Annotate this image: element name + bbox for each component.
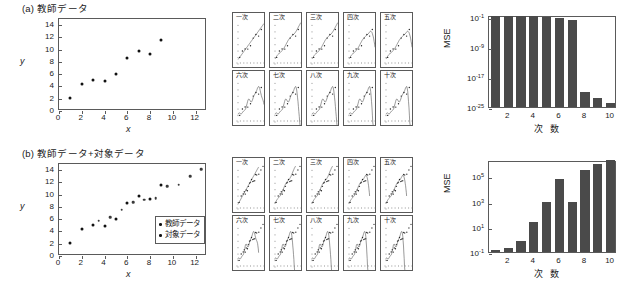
x-axis-tick-label: 10: [167, 113, 176, 122]
legend-dot-icon: [159, 234, 162, 237]
mse-y-axis-tick-label: 10-9: [470, 43, 484, 54]
thumbnail-label: 四次: [346, 14, 360, 20]
mse-y-axis-tick-label: 10-17: [467, 73, 484, 84]
thumbnail-fit-degree-10: 十次: [380, 215, 413, 271]
panel-a-scatter-ylabel: y: [20, 56, 25, 66]
panel-b-mse-chart: MSE 10510310110-1 246810 次 数: [440, 159, 630, 285]
panel-b-thumb-row-top: 一次二次三次四次五次: [232, 157, 416, 213]
scatter-point: [126, 201, 129, 204]
scatter-point: [177, 184, 180, 187]
thumbnail-label: 六次: [235, 72, 249, 78]
scatter-point: [80, 83, 83, 86]
mse-bar: [606, 103, 615, 107]
panel-a-scatter-xticks: 024681012: [58, 113, 206, 125]
mse-bar: [491, 16, 500, 107]
thumbnail-fit-degree-3: 三次: [306, 12, 339, 68]
thumbnail-fit-degree-8: 八次: [306, 215, 339, 271]
scatter-point: [166, 185, 169, 188]
panel-b-mse-xlabel: 次 数: [534, 267, 561, 280]
y-axis-tick-label: 4: [38, 226, 54, 235]
thumbnail-label: 三次: [309, 159, 323, 165]
panel-a-scatter-plotarea: [58, 18, 206, 110]
panel-a-scatter-yticks: 02468101214: [36, 18, 54, 110]
scatter-point: [160, 39, 163, 42]
thumbnail-label: 七次: [272, 72, 286, 78]
thumbnail-label: 十次: [383, 72, 397, 78]
mse-y-axis-tick: [489, 178, 492, 179]
panel-a: (a) 教師データ y 02468101214 024681012 x 一次二次…: [0, 0, 633, 145]
thumbnail-fit-degree-4: 四次: [343, 157, 376, 213]
scatter-point: [189, 175, 192, 178]
mse-y-axis-tick-label: 10-25: [467, 103, 484, 114]
panel-b-title: (b) 教師データ+対象データ: [22, 146, 145, 160]
scatter-point: [160, 184, 163, 187]
mse-y-axis-tick: [489, 109, 492, 110]
panel-b: (b) 教師データ+対象データ y 02468101214 教師データ 対象デー…: [0, 145, 633, 290]
mse-y-axis-tick: [489, 79, 492, 80]
mse-bar: [504, 16, 513, 107]
y-axis-tick: [59, 37, 62, 38]
thumbnail-fit-degree-9: 九次: [343, 70, 376, 126]
x-axis-tick-label: 6: [124, 113, 128, 122]
thumbnail-fit-degree-4: 四次: [343, 12, 376, 68]
thumbnail-fit-degree-2: 二次: [269, 12, 302, 68]
x-axis-tick-label: 12: [190, 258, 199, 267]
thumbnail-label: 三次: [309, 14, 323, 20]
thumbnail-fit-degree-7: 七次: [269, 70, 302, 126]
scatter-point: [120, 208, 123, 211]
mse-y-axis-tick-label: 103: [472, 197, 484, 208]
scatter-point: [149, 52, 152, 55]
mse-x-axis-tick-label: 2: [505, 111, 509, 120]
y-axis-tick: [59, 231, 62, 232]
mse-bar: [580, 92, 589, 107]
thumbnail-label: 四次: [346, 159, 360, 165]
panel-b-scatter-yticks: 02468101214: [36, 163, 54, 255]
panel-a-mse-yticks: 10-110-910-1710-25: [450, 16, 486, 108]
mse-y-axis-tick: [489, 229, 492, 230]
thumbnail-fit-degree-3: 三次: [306, 157, 339, 213]
y-axis-tick: [59, 74, 62, 75]
scatter-point: [132, 201, 135, 204]
thumbnail-fit-degree-9: 九次: [343, 215, 376, 271]
panel-b-scatter-ylabel: y: [20, 201, 25, 211]
panel-a-scatter: y 02468101214 024681012 x: [18, 16, 218, 138]
y-axis-tick-label: 0: [38, 251, 54, 260]
y-axis-tick: [59, 207, 62, 208]
y-axis-tick-label: 12: [38, 177, 54, 186]
mse-y-axis-tick-label: 101: [472, 222, 484, 233]
panel-b-thumb-row-bottom: 六次七次八次九次十次: [232, 215, 416, 271]
scatter-point: [114, 217, 117, 220]
y-axis-tick-label: 12: [38, 32, 54, 41]
x-axis-tick-label: 8: [147, 113, 151, 122]
mse-bar: [529, 222, 538, 252]
mse-y-axis-tick-label: 10-1: [470, 12, 484, 23]
scatter-point: [200, 168, 203, 171]
thumbnail-fit-degree-6: 六次: [232, 215, 265, 271]
thumbnail-label: 六次: [235, 217, 249, 223]
panel-b-thumbnails: 一次二次三次四次五次 六次七次八次九次十次: [232, 157, 416, 277]
x-axis-tick-label: 2: [79, 258, 83, 267]
scatter-point: [149, 197, 152, 200]
x-axis-tick-label: 0: [56, 258, 60, 267]
mse-bar: [542, 202, 551, 252]
mse-bar: [491, 250, 500, 252]
thumbnail-fit-degree-8: 八次: [306, 70, 339, 126]
scatter-point: [69, 96, 72, 99]
x-axis-tick-label: 2: [79, 113, 83, 122]
y-axis-tick: [59, 62, 62, 63]
mse-x-axis-tick-label: 10: [605, 111, 614, 120]
y-axis-tick-label: 10: [38, 44, 54, 53]
y-axis-tick-label: 4: [38, 81, 54, 90]
y-axis-tick: [59, 244, 62, 245]
mse-x-axis-tick-label: 8: [582, 256, 586, 265]
x-axis-tick-label: 4: [101, 258, 105, 267]
scatter-point: [126, 56, 129, 59]
x-axis-tick-label: 12: [190, 113, 199, 122]
mse-bar: [542, 17, 551, 107]
panel-a-mse-plotarea: [488, 16, 616, 108]
thumbnail-fit-degree-1: 一次: [232, 157, 265, 213]
scatter-point: [109, 216, 112, 219]
panel-b-scatter-legend: 教師データ 対象データ: [155, 216, 205, 244]
mse-bar: [593, 164, 602, 252]
mse-y-axis-tick: [489, 254, 492, 255]
